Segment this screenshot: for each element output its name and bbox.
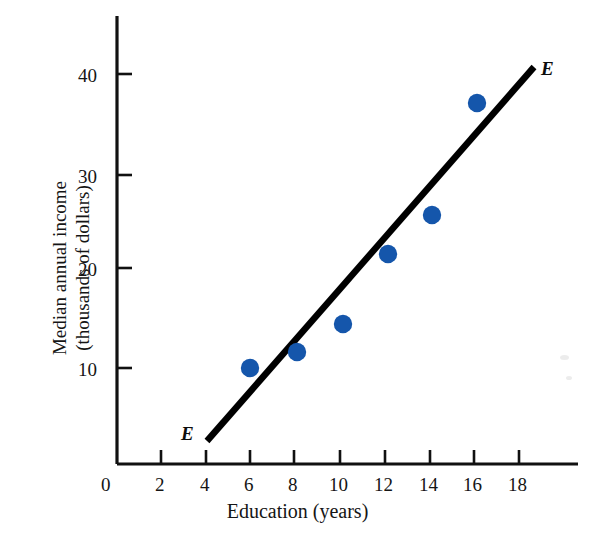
data-points [241,94,486,377]
x-tick-label-16: 16 [463,475,482,494]
x-tick-label-12: 12 [374,475,393,494]
y-axis-ticks [117,74,132,368]
x-tick-label-2: 2 [155,475,165,494]
trend-line-label-end: E [541,58,554,80]
scatter-plot-figure: 40 30 20 10 0 2 4 6 8 10 12 14 16 18 Med… [0,0,595,541]
trend-line-label-start: E [181,423,194,445]
y-axis-title-line1: Median annual income [48,181,71,355]
y-tick-label-40: 40 [78,66,97,85]
x-tick-label-6: 6 [244,475,254,494]
x-tick-label-18: 18 [508,475,527,494]
x-axis-title: Education (years) [0,500,595,523]
y-axis-title: Median annual income (thousands of dolla… [41,123,101,413]
trend-line [207,67,534,441]
x-axis-ticks [161,450,519,464]
data-point [334,315,352,333]
data-point [288,343,306,361]
data-point [423,206,441,224]
data-point [468,94,486,112]
x-tick-label-10: 10 [329,475,348,494]
data-point [241,359,259,377]
x-tick-label-8: 8 [288,475,298,494]
x-tick-label-0: 0 [101,475,111,494]
x-tick-label-4: 4 [200,475,210,494]
data-point [379,245,397,263]
x-tick-label-14: 14 [419,475,438,494]
y-axis-title-line2: (thousands of dollars) [71,185,94,351]
